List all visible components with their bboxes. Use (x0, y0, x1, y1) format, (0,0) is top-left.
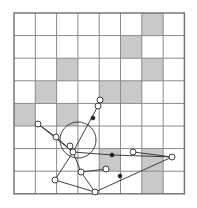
joint-open (67, 143, 73, 149)
joint-solid (118, 174, 122, 178)
joint-open (53, 134, 59, 140)
joint-open (103, 166, 109, 172)
joint-open (130, 149, 136, 155)
joint-open (95, 103, 101, 109)
grid-cell-shaded (142, 149, 163, 172)
joint-solid (110, 153, 114, 157)
mechanism-grid-figure (0, 0, 197, 208)
joint-open (92, 189, 98, 195)
joint-open (35, 121, 41, 127)
joint-open (97, 97, 103, 103)
grid-cell-shaded (121, 81, 142, 104)
grid-cell-shaded (57, 58, 78, 81)
grid-cell-shaded (121, 36, 142, 59)
joint-open (52, 177, 58, 183)
joint-open (70, 149, 76, 155)
linkage-link (81, 172, 95, 192)
grid-cell-shaded (99, 149, 120, 172)
grid-cell-shaded (142, 171, 163, 194)
diagram-canvas (0, 0, 197, 208)
linkage-link (55, 180, 95, 192)
joint-open (169, 154, 175, 160)
grid-cell-shaded (142, 58, 163, 81)
joint-solid (91, 116, 95, 120)
grid-cell-shaded (14, 103, 35, 126)
joint-open (78, 169, 84, 175)
grid-cell-shaded (35, 81, 56, 104)
grid-cell-shaded (142, 13, 163, 36)
